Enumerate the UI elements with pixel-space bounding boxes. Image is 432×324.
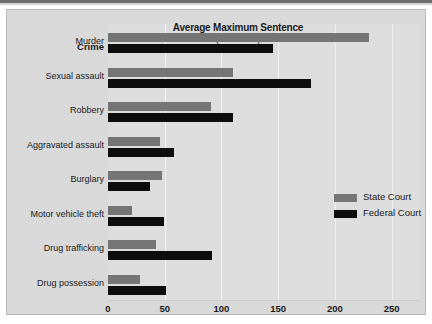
chart-figure: Average Maximum Sentence (in Months) Cri… [0, 0, 432, 324]
chart-title: Average Maximum Sentence [108, 22, 368, 33]
bar-state-court [108, 275, 140, 284]
category-label: Drug possession [7, 278, 104, 288]
bar-federal-court [108, 182, 150, 191]
bar-state-court [108, 171, 162, 180]
gridline [278, 24, 279, 300]
category-label: Drug trafficking [7, 243, 104, 253]
bar-federal-court [108, 113, 233, 122]
x-tick-label: 200 [315, 303, 355, 314]
x-tick-label: 250 [372, 303, 412, 314]
x-tick-label: 100 [201, 303, 241, 314]
legend-label: State Court [363, 191, 411, 202]
bar-state-court [108, 137, 160, 146]
bar-state-court [108, 33, 369, 42]
bar-federal-court [108, 286, 166, 295]
category-label: Motor vehicle theft [7, 209, 104, 219]
category-label: Sexual assault [7, 71, 104, 81]
legend-swatch-federal-court [334, 210, 357, 218]
chart-panel: Average Maximum Sentence (in Months) Cri… [6, 9, 426, 315]
x-tick-label: 0 [88, 303, 128, 314]
x-axis-line [108, 300, 420, 301]
legend-swatch-state-court [334, 194, 357, 202]
category-label: Aggravated assault [7, 140, 104, 150]
scan-top-strip-secondary [0, 3, 432, 5]
bar-federal-court [108, 251, 212, 260]
gridline [221, 24, 222, 300]
bar-state-court [108, 206, 132, 215]
bar-federal-court [108, 148, 174, 157]
x-tick-label: 150 [258, 303, 298, 314]
bar-federal-court [108, 217, 164, 226]
category-label: Robbery [7, 105, 104, 115]
gridline [335, 24, 336, 300]
bar-state-court [108, 68, 233, 77]
category-label: Burglary [7, 174, 104, 184]
category-label: Murder [7, 36, 104, 46]
gridline [392, 24, 393, 300]
bar-state-court [108, 240, 156, 249]
bar-federal-court [108, 79, 311, 88]
x-tick-label: 50 [145, 303, 185, 314]
bar-state-court [108, 102, 211, 111]
bar-federal-court [108, 44, 273, 53]
legend-label: Federal Court [363, 207, 421, 218]
